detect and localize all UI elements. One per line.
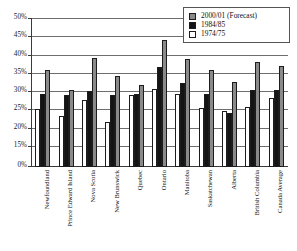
legend-item: 1984/85 [189, 21, 285, 29]
x-axis-label: Canada Average [276, 170, 283, 213]
x-axis-label: Saskatchewan [206, 170, 213, 207]
x-axis-label: Ontario [160, 170, 167, 190]
legend-label: 2000/01 (Forecast) [201, 12, 257, 20]
bar [185, 59, 190, 167]
y-tick-label: 0% [17, 162, 27, 169]
legend-swatch-icon [189, 31, 196, 38]
bar-chart: 50%45%40%35%30%25%20%15%0% NewfoundlandP… [0, 0, 297, 251]
x-axis-label: Nova Scotia [89, 170, 96, 202]
bar [279, 66, 284, 167]
bar [232, 82, 237, 167]
legend-item: 2000/01 (Forecast) [189, 12, 285, 20]
x-axis-label: Alberta [230, 170, 237, 190]
y-tick-label: 40% [14, 51, 27, 58]
bar [255, 62, 260, 167]
bar-group [148, 18, 171, 167]
bar-group [54, 18, 77, 167]
legend-label: 1974/75 [201, 30, 225, 38]
x-axis-label: New Brunswick [113, 170, 120, 213]
bar-group [78, 18, 101, 167]
bar [162, 40, 167, 167]
legend-label: 1984/85 [201, 21, 225, 29]
legend-item: 1974/75 [189, 30, 285, 38]
x-axis-labels: NewfoundlandPrince Edward IslandNova Sco… [31, 170, 288, 251]
x-axis-label: Prince Edward Island [66, 170, 73, 227]
bar-group [101, 18, 124, 167]
y-tick-label: 50% [14, 14, 27, 21]
bar [69, 90, 74, 167]
y-tick-label: 25% [14, 106, 27, 113]
y-tick-label: 45% [14, 33, 27, 40]
legend-swatch-icon [189, 22, 196, 29]
x-axis-label: Quebec [136, 170, 143, 190]
y-tick-label: 35% [14, 69, 27, 76]
chart-legend: 2000/01 (Forecast)1984/851974/75 [183, 7, 290, 43]
y-tick-label: 30% [14, 88, 27, 95]
y-tick-label: 20% [14, 124, 27, 131]
bar [115, 76, 120, 167]
y-tick-label: 15% [14, 142, 27, 149]
bar [45, 70, 50, 167]
legend-swatch-icon [189, 13, 196, 20]
bar-group [31, 18, 54, 167]
bar [92, 58, 97, 167]
bar [209, 70, 214, 167]
x-axis-label: British Columbia [253, 170, 260, 216]
x-axis-label: Manitoba [183, 170, 190, 195]
bar-group [124, 18, 147, 167]
x-axis-label: Newfoundland [43, 170, 50, 209]
bar [139, 85, 144, 167]
